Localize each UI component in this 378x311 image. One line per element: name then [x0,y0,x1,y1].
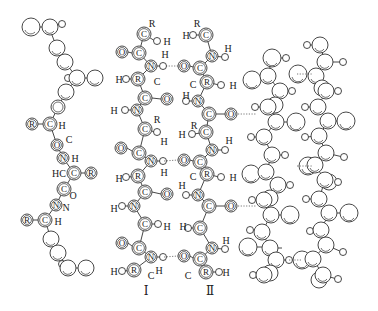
atom-label: R [204,77,210,87]
atom-label: H [160,167,167,178]
atom-label: H [182,90,189,101]
atom-label: H [225,135,232,146]
atom-label: C [71,168,77,178]
atom-label: C [142,124,148,134]
protein-structure-diagram: RCHOCNHHCCRCONNRCH RCHOCHNHRCCOHNRCHOCNH… [0,0,378,311]
atom-label: C [42,215,48,225]
atom-label: C [148,270,155,281]
atom-label: N [134,105,141,115]
atom-label: N [60,153,67,163]
atom-label: N [62,202,69,213]
atom-label: C [136,148,142,158]
atom-label: H [224,43,231,54]
atom-label: N [209,243,216,253]
atom-label: C [142,187,148,197]
atom-label: C [61,184,67,194]
atom-label: C [197,63,203,73]
atom-label: N [53,200,60,210]
strand-I-labels: RCHOCHNHRCCOHNRCHOCNHHRCOHNCHOCNHHRC [110,18,173,281]
atom-label: R [135,74,141,84]
atom-label: C [197,223,203,233]
atom-label: N [195,190,202,200]
atom-label: C [142,93,148,103]
atom-label: N [148,156,155,166]
beta-sheet-right [239,37,358,288]
atom-label: H [115,74,122,85]
atom-label: N [195,96,202,106]
atom-label: C [206,201,212,211]
atom-label: C [47,119,53,129]
atom-label: O [164,94,171,104]
atom-label: HC [52,168,66,179]
atom-label: C [185,270,192,281]
atom-label: C [203,30,209,40]
atom-label: O [69,190,76,201]
atom-label: O [181,155,188,165]
atom-label: C [206,109,212,119]
atom-label: O [228,109,235,119]
atom-label: R [88,168,94,178]
atom-label: H [110,266,117,277]
atom-label: R [194,18,201,29]
strand-roman-labels: ⅠⅡ [144,284,214,298]
atom-label: H [58,120,65,131]
atom-label: H [182,30,189,41]
atom-label: H [115,173,122,184]
atom-label: H [71,153,78,164]
atom-label: H [229,80,236,91]
atom-label: H [163,36,170,47]
atom-label: C [203,127,209,137]
atom-label: N [148,61,155,71]
atom-label: C [197,254,203,264]
atom-label: R [131,265,137,275]
alpha-helix-labels: RCHOCNHHCCRCONNRCH [21,117,97,227]
atom-label: R [191,120,198,131]
atom-label: O [228,201,235,211]
atom-label: O [181,61,188,71]
atom-label: C [136,243,142,253]
atom-label: R [203,267,209,277]
atom-label: H [222,235,229,246]
strand-label-I: Ⅰ [144,284,149,298]
atom-label: H [155,265,162,276]
atom-label: O [118,143,125,153]
atom-label: H [110,203,117,214]
atom-label: C [197,157,203,167]
atom-label: R [29,119,35,129]
atom-label: H [163,221,170,232]
atom-label: N [209,145,216,155]
atom-label: C [142,219,148,229]
atom-label: H [178,129,185,140]
atom-label: C [190,79,197,90]
atom-label: H [110,105,117,116]
diagram-canvas: RCHOCNHHCCRCONNRCH RCHOCHNHRCCOHNRCHOCNH… [0,0,378,311]
atom-label: C [141,29,147,39]
atom-label: N [148,252,155,262]
atom-label: O [119,238,126,248]
atom-label: C [190,171,197,182]
atom-label: O [119,47,126,57]
atom-label: R [149,18,156,29]
atom-label: H [229,172,236,183]
atom-label: N [209,51,216,61]
atom-label: O [54,140,61,150]
atom-label: H [179,221,186,232]
atom-label: H [161,49,168,60]
atom-label: C [154,76,161,87]
atom-label: N [131,201,138,211]
atom-label: H [160,136,167,147]
atom-label: R [24,215,30,225]
atom-label: C [136,48,142,58]
strand-label-II: Ⅱ [206,284,214,298]
atom-label: H [222,267,229,278]
atom-label: H [178,180,185,191]
atom-label: O [181,251,188,261]
atom-label: R [204,169,210,179]
atom-label: O [164,189,171,199]
atom-label: H [54,216,61,227]
atom-label: R [135,171,141,181]
atom-label: R [154,114,161,125]
atom-label: C [66,134,73,145]
